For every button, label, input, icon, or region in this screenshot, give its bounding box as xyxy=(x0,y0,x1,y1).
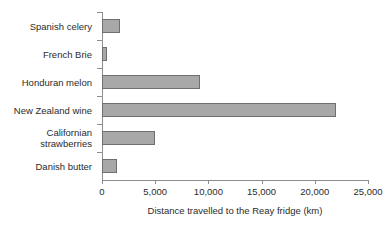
x-axis-tick-label: 15,000 xyxy=(247,186,276,197)
category-label-line: Californian xyxy=(47,127,92,138)
category-label-line: French Brie xyxy=(43,49,92,60)
category-label-line: Spanish celery xyxy=(30,21,92,32)
x-axis-tick xyxy=(368,180,369,184)
x-axis-title: Distance travelled to the Reay fridge (k… xyxy=(102,205,368,217)
x-axis-tick xyxy=(208,180,209,184)
category-label: Honduran melon xyxy=(0,68,96,96)
category-label-line: Honduran melon xyxy=(22,77,92,88)
category-label: French Brie xyxy=(0,40,96,68)
category-label: New Zealand wine xyxy=(0,96,96,124)
x-axis-line xyxy=(102,180,369,181)
bar xyxy=(102,47,107,61)
bar-row xyxy=(102,96,368,124)
y-axis-tick xyxy=(97,124,102,125)
y-axis-tick xyxy=(97,68,102,69)
x-axis-tick-label: 25,000 xyxy=(353,186,382,197)
x-axis-tick-label: 20,000 xyxy=(300,186,329,197)
category-axis-labels: Spanish celeryFrench BrieHonduran melonN… xyxy=(0,12,96,180)
y-axis-tick xyxy=(97,40,102,41)
bar-row xyxy=(102,40,368,68)
category-label-line: New Zealand wine xyxy=(14,105,92,116)
x-axis-tick-label: 0 xyxy=(99,186,104,197)
category-label-line: strawberries xyxy=(40,138,92,149)
bar-chart: Spanish celeryFrench BrieHonduran melonN… xyxy=(0,0,386,230)
bar-row xyxy=(102,124,368,152)
x-axis-tick xyxy=(102,180,103,184)
x-axis-tick-label: 10,000 xyxy=(194,186,223,197)
x-axis-tick-label: 5,000 xyxy=(143,186,167,197)
bar-row xyxy=(102,152,368,180)
y-axis-tick xyxy=(97,12,102,13)
x-axis-tick xyxy=(155,180,156,184)
bar xyxy=(102,103,336,117)
bar xyxy=(102,75,200,89)
category-label: Spanish celery xyxy=(0,12,96,40)
category-label: Danish butter xyxy=(0,152,96,180)
bar xyxy=(102,19,120,33)
bar xyxy=(102,131,155,145)
x-axis-tick xyxy=(315,180,316,184)
y-axis-tick xyxy=(97,152,102,153)
bar xyxy=(102,159,117,173)
x-axis-tick xyxy=(262,180,263,184)
category-label-line: Danish butter xyxy=(35,161,92,172)
bar-row xyxy=(102,12,368,40)
y-axis-tick xyxy=(97,96,102,97)
bar-row xyxy=(102,68,368,96)
plot-area xyxy=(102,12,368,180)
category-label: Californianstrawberries xyxy=(0,124,96,152)
bar-rows xyxy=(102,12,368,180)
